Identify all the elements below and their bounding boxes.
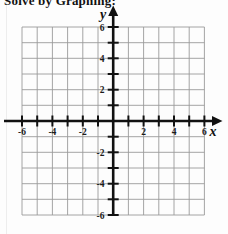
y-axis-arrow-icon — [108, 6, 118, 17]
worksheet-graph-screenshot: Solve by Graphing: — [0, 0, 228, 234]
coordinate-grid: -6 -4 -2 2 4 6 6 4 2 -2 -4 -6 x y — [0, 0, 228, 234]
y-tick-label: 4 — [100, 54, 105, 64]
x-tick-label: -4 — [48, 127, 56, 137]
y-tick-label: 6 — [100, 23, 105, 33]
y-tick-label: 2 — [100, 85, 105, 95]
x-tick-label: 4 — [172, 127, 177, 137]
x-tick-label: 2 — [141, 127, 146, 137]
y-tick-label: -6 — [97, 211, 105, 221]
x-tick-label: 6 — [202, 127, 207, 137]
x-axis-label: x — [209, 124, 217, 139]
x-tick-label: -6 — [18, 127, 26, 137]
y-axis-label: y — [98, 7, 107, 22]
y-tick-label: -2 — [97, 148, 105, 158]
x-tick-label: -2 — [79, 127, 87, 137]
y-tick-label: -4 — [97, 179, 105, 189]
